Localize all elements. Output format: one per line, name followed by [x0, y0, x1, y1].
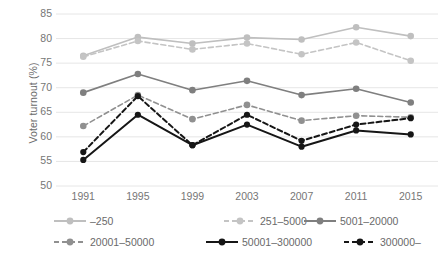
y-axis-tick-65: 65 — [26, 106, 52, 117]
data-point — [353, 24, 360, 31]
data-point — [298, 117, 305, 124]
y-axis-tick-80: 80 — [26, 33, 52, 44]
y-axis-tick-labels: 8580757065605550 — [22, 14, 52, 186]
x-axis-tick-1995: 1995 — [108, 190, 168, 202]
data-point — [189, 87, 196, 94]
legend-swatch-icon — [342, 235, 378, 249]
x-axis-tick-labels: 1991199519992003200720112015 — [56, 190, 438, 206]
data-point — [189, 40, 196, 47]
plot-area — [56, 14, 438, 186]
y-axis-tick-55: 55 — [26, 155, 52, 166]
y-axis-tick-85: 85 — [26, 8, 52, 19]
data-point — [408, 115, 414, 121]
data-point — [244, 34, 251, 41]
legend-marker — [67, 218, 74, 225]
x-axis-tick-1991: 1991 — [53, 190, 113, 202]
x-axis-tick-2003: 2003 — [217, 190, 277, 202]
legend-item-2[interactable]: 5001–20000 — [302, 211, 398, 231]
data-point — [244, 121, 250, 127]
legend-swatch-icon — [52, 235, 88, 249]
legend-row-top: –250251–50005001–20000 — [52, 211, 428, 231]
data-point — [80, 89, 87, 96]
y-axis-tick-70: 70 — [26, 82, 52, 93]
data-point — [135, 93, 141, 99]
data-point — [80, 157, 86, 163]
legend-item-4[interactable]: 50001–300000 — [204, 232, 312, 252]
data-point — [298, 36, 305, 43]
data-point — [407, 57, 414, 64]
legend-marker — [67, 239, 74, 246]
legend-label: 251–5000 — [258, 215, 307, 227]
legend-swatch-icon — [52, 214, 88, 228]
y-axis-tick-50: 50 — [26, 180, 52, 191]
data-point — [135, 71, 142, 78]
data-point — [189, 46, 196, 53]
x-axis-tick-2011: 2011 — [326, 190, 386, 202]
legend-item-5[interactable]: 300000– — [342, 232, 421, 252]
data-point — [298, 138, 304, 144]
legend-marker — [357, 239, 364, 246]
legend-label: 5001–20000 — [338, 215, 398, 227]
series-line — [83, 95, 410, 126]
data-point — [135, 112, 141, 118]
legend-label: 300000– — [378, 236, 421, 248]
data-point — [189, 116, 196, 123]
data-point — [407, 99, 414, 106]
x-axis-tick-2007: 2007 — [272, 190, 332, 202]
legend-item-3[interactable]: 20001–50000 — [52, 232, 154, 252]
data-point — [244, 102, 251, 109]
legend-label: 50001–300000 — [240, 236, 312, 248]
legend-swatch-icon — [222, 214, 258, 228]
legend-item-1[interactable]: 251–5000 — [222, 211, 307, 231]
data-point — [244, 112, 250, 118]
data-point — [407, 33, 414, 40]
data-point — [244, 40, 251, 47]
data-point — [353, 121, 359, 127]
series-1 — [80, 38, 414, 64]
data-point — [353, 39, 360, 46]
data-point — [408, 131, 414, 137]
data-point — [353, 85, 360, 92]
data-point — [244, 78, 251, 85]
x-axis-tick-1999: 1999 — [162, 190, 222, 202]
x-axis-tick-2015: 2015 — [381, 190, 441, 202]
legend-marker — [219, 239, 226, 246]
legend-label: 20001–50000 — [88, 236, 154, 248]
line-chart: Voter turnout (%) 8580757065605550 19911… — [0, 0, 446, 262]
legend-label: –250 — [88, 215, 113, 227]
legend-marker — [237, 218, 244, 225]
legend-row-bottom: 20001–5000050001–300000300000– — [52, 232, 428, 252]
legend-swatch-icon — [204, 235, 240, 249]
y-axis-tick-75: 75 — [26, 57, 52, 68]
data-point — [353, 112, 360, 119]
data-point — [298, 92, 305, 99]
legend-item-0[interactable]: –250 — [52, 211, 113, 231]
data-point — [80, 149, 86, 155]
chart-legend: –250251–50005001–20000 20001–5000050001–… — [52, 211, 428, 255]
legend-marker — [317, 218, 324, 225]
data-point — [298, 144, 304, 150]
data-point — [80, 123, 87, 130]
data-point — [353, 127, 359, 133]
data-point — [135, 38, 142, 45]
legend-swatch-icon — [302, 214, 338, 228]
data-point — [80, 53, 87, 60]
data-point — [298, 51, 305, 58]
y-axis-tick-60: 60 — [26, 131, 52, 142]
data-point — [189, 142, 195, 148]
plot-canvas — [56, 14, 438, 186]
